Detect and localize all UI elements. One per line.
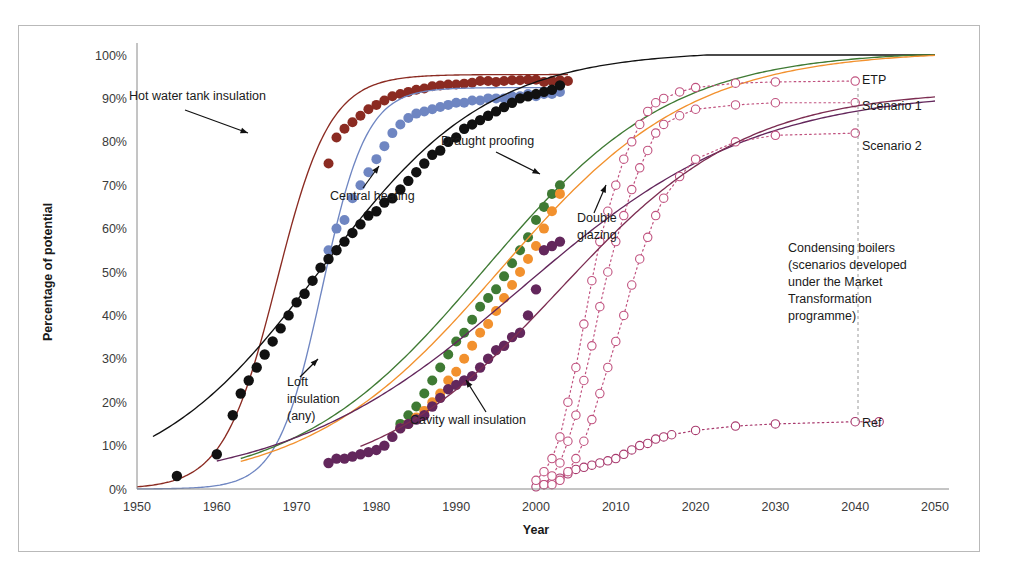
annotation-double-glazing-line2: glazing xyxy=(577,228,617,242)
data-point xyxy=(315,262,325,272)
annotation-central-heating: Central heating xyxy=(330,189,415,203)
data-point xyxy=(467,315,477,325)
data-point xyxy=(419,158,429,168)
data-point xyxy=(572,465,580,473)
data-point xyxy=(548,480,556,488)
data-point xyxy=(499,341,509,351)
data-point xyxy=(564,398,572,406)
data-point xyxy=(299,289,309,299)
inline-label-label-scenario-1: Scenario 1 xyxy=(862,99,922,113)
series-ref xyxy=(532,418,884,491)
data-point xyxy=(612,454,620,462)
data-point xyxy=(731,422,739,430)
arrow-head-draught-proofing xyxy=(532,168,540,174)
x-tick-label: 2050 xyxy=(921,500,949,514)
data-point xyxy=(475,362,485,372)
data-point xyxy=(540,467,548,475)
data-point xyxy=(620,450,628,458)
data-point xyxy=(347,117,357,127)
x-tick-label: 2030 xyxy=(761,500,789,514)
data-point xyxy=(731,101,739,109)
data-point xyxy=(636,120,644,128)
data-point xyxy=(572,411,580,419)
data-point xyxy=(244,375,254,385)
series-dotted-line xyxy=(536,422,879,487)
annotation-condensing-boilers-line5: programme) xyxy=(788,309,856,323)
data-point xyxy=(307,275,317,285)
data-point xyxy=(531,215,541,225)
x-tick-label: 1950 xyxy=(123,500,151,514)
data-point xyxy=(659,433,667,441)
arrow-head-double-glazing-line1 xyxy=(600,185,606,193)
data-point xyxy=(691,83,699,91)
data-point xyxy=(628,138,636,146)
annotation-double-glazing-line1: Double xyxy=(577,211,617,225)
data-point xyxy=(691,426,699,434)
data-point xyxy=(236,388,246,398)
data-point xyxy=(451,367,461,377)
y-tick-label: 30% xyxy=(102,352,127,366)
x-tick-label: 2010 xyxy=(602,500,630,514)
data-point xyxy=(323,254,333,264)
annotation-condensing-boilers-line1: Condensing boilers xyxy=(788,241,895,255)
data-point xyxy=(588,461,596,469)
data-point xyxy=(283,310,293,320)
inline-label-label-ref: Ref xyxy=(862,416,882,430)
x-tick-label: 2040 xyxy=(841,500,869,514)
data-point xyxy=(652,99,660,107)
data-point xyxy=(491,284,501,294)
data-point xyxy=(548,454,556,462)
data-point xyxy=(499,293,509,303)
data-point xyxy=(555,236,565,246)
y-tick-label: 50% xyxy=(102,266,127,280)
data-point xyxy=(620,311,628,319)
y-tick-label: 90% xyxy=(102,92,127,106)
annotation-loft-insulation-line1: Loft xyxy=(287,375,308,389)
data-point xyxy=(555,189,565,199)
data-point xyxy=(612,181,620,189)
data-point xyxy=(291,297,301,307)
data-point xyxy=(515,267,525,277)
data-point xyxy=(556,476,564,484)
data-point xyxy=(604,363,612,371)
data-point xyxy=(652,435,660,443)
data-point xyxy=(411,167,421,177)
data-point xyxy=(596,303,604,311)
data-point xyxy=(659,120,667,128)
data-point xyxy=(212,449,222,459)
data-point xyxy=(555,180,565,190)
data-point xyxy=(644,107,652,115)
data-point xyxy=(371,206,381,216)
data-point xyxy=(636,255,644,263)
data-point xyxy=(588,276,596,284)
annotation-loft-insulation-line2: insulation xyxy=(287,392,340,406)
data-point xyxy=(339,124,349,134)
data-point xyxy=(636,164,644,172)
data-point xyxy=(555,80,565,90)
annotation-condensing-boilers-line3: under the Market xyxy=(788,275,883,289)
data-point xyxy=(355,219,365,229)
data-point xyxy=(620,211,628,219)
data-point xyxy=(636,441,644,449)
data-point xyxy=(556,433,564,441)
data-point xyxy=(499,271,509,281)
data-point xyxy=(588,342,596,350)
data-point xyxy=(467,341,477,351)
data-point xyxy=(515,328,525,338)
annotation-condensing-boilers-line4: Transformation xyxy=(788,292,872,306)
data-point xyxy=(675,112,683,120)
data-point xyxy=(580,463,588,471)
y-axis-title: Percentage of potential xyxy=(41,203,55,341)
data-point xyxy=(644,233,652,241)
data-point xyxy=(507,280,517,290)
data-point xyxy=(475,328,485,338)
annotation-condensing-boilers-line2: (scenarios developed xyxy=(788,258,907,272)
y-tick-label: 60% xyxy=(102,222,127,236)
x-axis-title: Year xyxy=(523,523,550,537)
data-point xyxy=(252,362,262,372)
data-point xyxy=(172,471,182,481)
inline-label-label-etp: ETP xyxy=(862,73,886,87)
data-point xyxy=(667,431,675,439)
data-point xyxy=(628,185,636,193)
data-point xyxy=(564,437,572,445)
